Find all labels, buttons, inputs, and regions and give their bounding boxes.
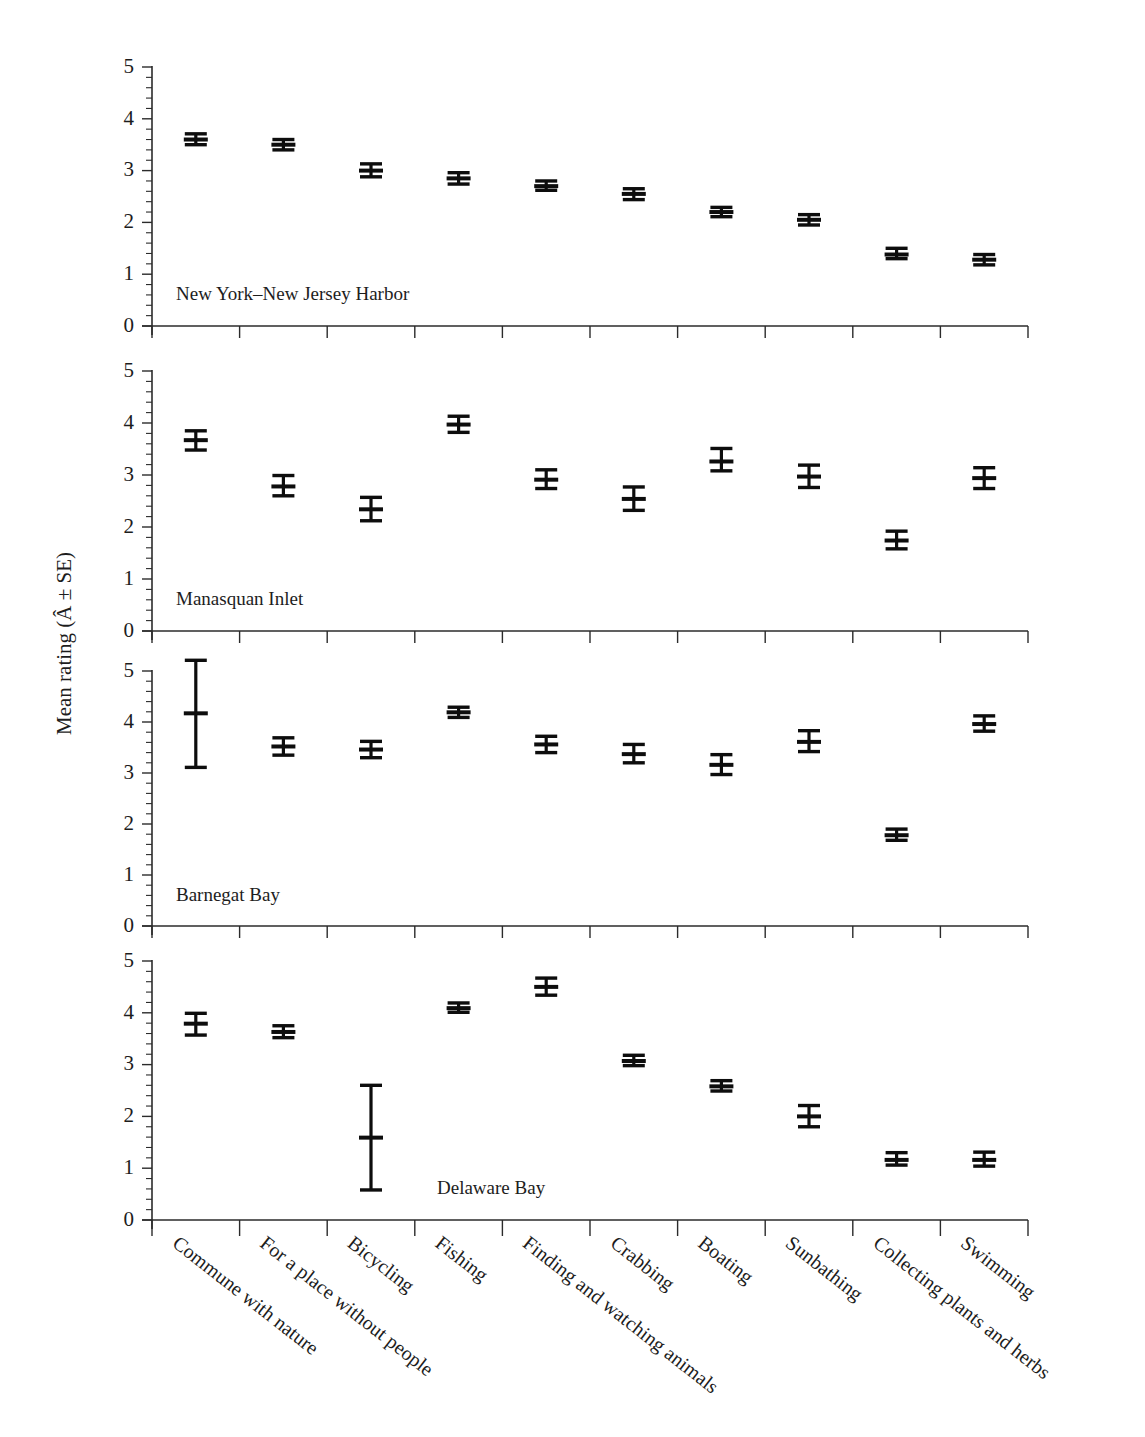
y-tick-label: 3 [124,462,135,486]
data-point [534,470,558,489]
y-tick-label: 4 [124,106,135,130]
x-axis-label-0: Commune with nature [169,1231,324,1359]
data-point [885,531,909,549]
y-tick-label: 5 [124,658,135,682]
x-axis-label-6: Boating [694,1231,758,1288]
panel-1: 012345New York–New Jersey Harbor [124,54,1029,338]
panel-3-series [184,660,996,840]
data-point [797,1106,821,1127]
y-tick-label: 0 [124,313,135,337]
data-point [271,140,295,150]
panel-title: New York–New Jersey Harbor [176,283,410,304]
multi-panel-error-bar-chart: 012345New York–New Jersey Harbor012345Ma… [0,0,1145,1437]
data-point [271,1026,295,1038]
data-point [359,741,383,757]
data-point [709,448,733,470]
data-point [972,716,996,731]
data-point [972,1152,996,1166]
x-axis-label-7: Sunbathing [781,1231,867,1305]
y-tick-label: 5 [124,54,135,78]
data-point [885,1153,909,1165]
y-tick-label: 0 [124,1207,135,1231]
data-point [447,1003,471,1012]
panel-title: Manasquan Inlet [176,588,304,609]
data-point [797,215,821,225]
data-point [622,189,646,200]
y-tick-label: 2 [124,209,135,233]
data-point [359,164,383,177]
y-tick-label: 3 [124,760,135,784]
x-axis-label-9: Swimming [956,1231,1039,1303]
y-tick-label: 0 [124,618,135,642]
x-axis-label-1: For a place without people [256,1231,438,1381]
y-tick-label: 4 [124,709,135,733]
x-axis-label-5: Crabbing [606,1231,679,1295]
data-point [972,255,996,265]
data-point [885,248,909,258]
data-point [534,736,558,752]
data-point [184,1013,208,1035]
y-tick-label: 3 [124,157,135,181]
data-point [184,431,208,450]
y-tick-label: 4 [124,1000,135,1024]
data-point [271,476,295,496]
data-point [972,468,996,489]
panel-2-series [184,416,996,549]
y-tick-label: 1 [124,566,135,590]
data-point [184,134,208,145]
data-point [534,181,558,190]
y-tick-label: 2 [124,514,135,538]
y-tick-label: 4 [124,410,135,434]
data-point [885,829,909,840]
data-point [271,738,295,755]
data-point [622,1055,646,1065]
panel-4-series [184,978,996,1190]
panel-title: Barnegat Bay [176,884,280,905]
data-point [622,744,646,762]
x-axis-label-2: Bicycling [343,1231,418,1297]
data-point [359,497,383,520]
y-tick-label: 3 [124,1051,135,1075]
panel-4: 012345Delaware Bay [124,948,1029,1236]
data-point [622,487,646,510]
panel-title: Delaware Bay [437,1177,546,1198]
panel-3: 012345Barnegat Bay [124,658,1029,938]
data-point [797,465,821,487]
panel-2: 012345Manasquan Inlet [124,358,1029,643]
panel-1-series [184,134,996,265]
data-point [709,207,733,216]
x-axis-label-3: Fishing [431,1231,492,1286]
y-axis-title: Mean rating (Â ± SE) [52,552,76,735]
data-point [534,978,558,995]
x-axis-category-labels: Commune with natureFor a place without p… [169,1231,1056,1398]
data-point [447,416,471,432]
y-tick-label: 1 [124,261,135,285]
data-point [447,707,471,717]
data-point [709,1081,733,1091]
y-tick-label: 1 [124,862,135,886]
data-point [797,731,821,752]
data-point [709,755,733,775]
y-tick-label: 5 [124,948,135,972]
y-tick-label: 1 [124,1155,135,1179]
data-point [359,1085,383,1190]
data-point [184,660,208,767]
x-axis-label-8: Collecting plants and herbs [869,1231,1055,1384]
data-point [447,173,471,184]
y-tick-label: 0 [124,913,135,937]
y-tick-label: 2 [124,811,135,835]
y-tick-label: 5 [124,358,135,382]
y-tick-label: 2 [124,1103,135,1127]
figure-container: 012345New York–New Jersey Harbor012345Ma… [0,0,1145,1437]
